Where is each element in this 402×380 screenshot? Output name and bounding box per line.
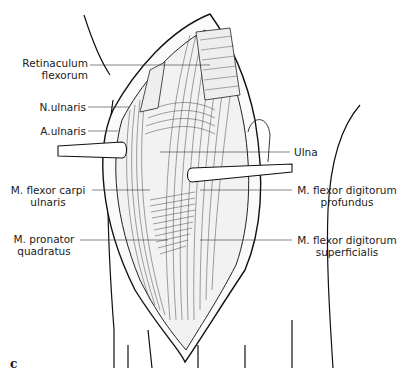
label-line: Retinaculum — [6, 57, 88, 69]
label-m-pronator-quadratus: M. pronator quadratus — [8, 233, 80, 257]
label-line: M. flexor digitorum — [294, 234, 400, 246]
label-retinaculum-flexorum: Retinaculum flexorum — [6, 57, 88, 81]
retractor-left — [58, 142, 127, 158]
label-a-ulnaris: A.ulnaris — [6, 125, 86, 137]
label-line: ulnaris — [2, 196, 94, 208]
label-n-ulnaris: N.ulnaris — [6, 101, 86, 113]
label-line: flexorum — [6, 69, 88, 81]
label-line: superficialis — [294, 246, 400, 258]
label-line: quadratus — [8, 245, 80, 257]
panel-letter: c — [10, 357, 17, 371]
label-m-flexor-digitorum-superficialis: M. flexor digitorum superficialis — [294, 234, 400, 258]
label-line: Ulna — [294, 146, 318, 158]
label-line: N.ulnaris — [6, 101, 86, 113]
label-line: M. flexor carpi — [2, 184, 94, 196]
label-m-flexor-carpi-ulnaris: M. flexor carpi ulnaris — [2, 184, 94, 208]
label-line: M. pronator — [8, 233, 80, 245]
label-m-flexor-digitorum-profundus: M. flexor digitorum profundus — [294, 184, 400, 208]
label-line: M. flexor digitorum — [294, 184, 400, 196]
anatomical-illustration: Retinaculum flexorum N.ulnaris A.ulnaris… — [0, 0, 402, 380]
label-line: profundus — [294, 196, 400, 208]
label-line: A.ulnaris — [6, 125, 86, 137]
label-ulna: Ulna — [294, 146, 318, 158]
